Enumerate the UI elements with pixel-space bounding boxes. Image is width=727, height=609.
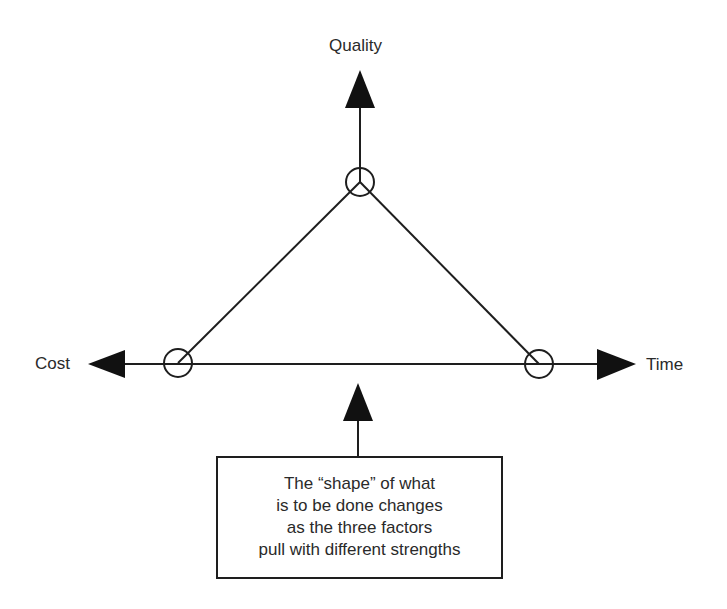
edge-quality-cost — [178, 182, 360, 363]
arrow-right-time-icon — [597, 349, 636, 380]
note-line: is to be done changes — [218, 495, 501, 517]
edge-quality-time — [360, 182, 539, 364]
arrow-left-cost-icon — [88, 350, 125, 378]
note-line: The “shape” of what — [218, 473, 501, 495]
arrow-up-note-icon — [343, 383, 373, 421]
label-time: Time — [646, 355, 683, 375]
label-cost: Cost — [35, 354, 70, 374]
note-line: as the three factors — [218, 517, 501, 539]
label-quality: Quality — [329, 36, 382, 56]
note-box: The “shape” of what is to be done change… — [216, 456, 503, 579]
note-line: pull with different strengths — [218, 539, 501, 561]
note-text: The “shape” of what is to be done change… — [218, 473, 501, 561]
arrow-up-quality-icon — [345, 70, 375, 108]
